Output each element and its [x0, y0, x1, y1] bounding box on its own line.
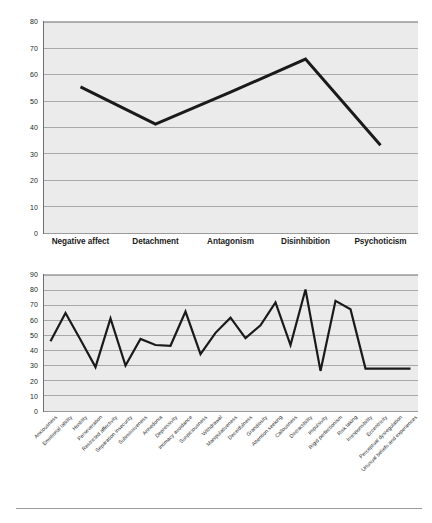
series-domains [43, 22, 418, 234]
y-tick-label: 10 [30, 203, 38, 210]
chart-domains: 01020304050607080 Negative affectDetachm… [0, 0, 432, 258]
y-tick-label: 80 [30, 286, 38, 293]
plot-area-facets [43, 274, 418, 411]
y-tick-label: 70 [30, 301, 38, 308]
y-tick-label: 20 [30, 377, 38, 384]
y-tick-label: 50 [30, 331, 38, 338]
y-tick-label: 40 [30, 124, 38, 131]
y-tick-label: 60 [30, 71, 38, 78]
y-axis-facets [43, 274, 44, 412]
y-tick-label: 0 [34, 230, 38, 237]
y-tick-label: 40 [30, 347, 38, 354]
y-tick-label: 0 [34, 408, 38, 415]
y-axis-tick-labels-domains: 01020304050607080 [0, 21, 38, 233]
y-tick-label: 80 [30, 18, 38, 25]
y-tick-label: 70 [30, 44, 38, 51]
x-category-label: Negative affect [43, 237, 118, 247]
plot-area-domains [43, 21, 418, 233]
y-axis-domains [43, 21, 44, 234]
y-tick-label: 20 [30, 177, 38, 184]
y-tick-label: 90 [30, 271, 38, 278]
y-tick-label: 10 [30, 392, 38, 399]
y-tick-label: 30 [30, 150, 38, 157]
y-axis-tick-labels-facets: 0102030405060708090 [0, 274, 38, 411]
x-category-label: Antagonism [193, 237, 268, 247]
y-tick-label: 30 [30, 362, 38, 369]
y-tick-label: 60 [30, 316, 38, 323]
x-axis-category-labels-facets: AnxiousnessEmotional labilityHostilityPe… [43, 414, 418, 504]
chart-facets: 0102030405060708090 AnxiousnessEmotional… [0, 262, 432, 507]
x-category-label: Disinhibition [268, 237, 343, 247]
y-tick-label: 50 [30, 97, 38, 104]
footer-rule [16, 508, 422, 509]
x-category-label: Detachment [118, 237, 193, 247]
series-facets [43, 275, 418, 412]
figure-page: 01020304050607080 Negative affectDetachm… [0, 0, 432, 523]
x-category-label: Psychoticism [343, 237, 418, 247]
x-axis-category-labels-domains: Negative affectDetachmentAntagonismDisin… [43, 237, 418, 247]
